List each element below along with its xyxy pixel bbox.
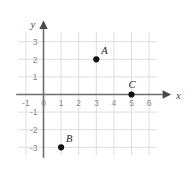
y-tick-label: -2: [30, 125, 38, 135]
x-tick-label: -1: [22, 98, 30, 108]
x-tick-label: 1: [59, 98, 64, 108]
point-marker: [58, 144, 64, 150]
point-label: C: [128, 79, 136, 90]
x-tick-label: 3: [94, 98, 99, 108]
y-axis-label: y: [30, 18, 36, 30]
x-tick-label: 0: [41, 98, 46, 108]
y-tick-label: 3: [33, 37, 38, 47]
y-tick-label: 1: [33, 72, 38, 82]
x-axis-label: x: [175, 89, 181, 101]
x-tick-label: 6: [147, 98, 152, 108]
x-tick-label: 2: [76, 98, 81, 108]
coordinate-plane-figure: -10123456 321-1-2-3 x y ABC: [0, 0, 192, 171]
y-tick-label: 2: [33, 55, 38, 65]
point-marker: [93, 56, 99, 62]
x-tick-label: 4: [112, 98, 117, 108]
point-label: B: [66, 133, 73, 144]
y-tick-label: -1: [30, 107, 38, 117]
x-tick-label: 5: [129, 98, 134, 108]
y-tick-label: -3: [30, 143, 38, 153]
coordinate-plane-svg: -10123456 321-1-2-3 x y ABC: [0, 0, 192, 171]
point-marker: [128, 91, 134, 97]
point-label: A: [100, 45, 108, 56]
